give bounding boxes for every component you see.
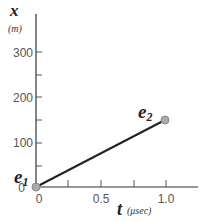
x-tick-1-0: 1.0 [158,192,175,206]
y-tick-300: 300 [13,46,33,60]
x-axis-unit: (μsec) [127,205,152,217]
event-e1-label: e1 [14,166,28,189]
y-tick-100: 100 [13,136,33,150]
spacetime-diagram: x (m) 300 200 100 0 0 0.5 1.0 t (μsec) e… [0,0,205,222]
event-e2-label: e2 [138,101,152,124]
y-tick-200: 200 [13,91,33,105]
y-axis-unit: (m) [8,23,23,35]
x-axis-variable: t [117,199,123,219]
event-e1-point [32,183,40,191]
x-tick-0-5: 0.5 [93,192,110,206]
event-e2-point [161,116,169,124]
x-ticks [68,180,166,187]
worldline [36,120,165,187]
y-ticks [36,52,42,166]
y-axis-variable: x [9,1,19,20]
x-tick-0: 0 [36,192,43,206]
